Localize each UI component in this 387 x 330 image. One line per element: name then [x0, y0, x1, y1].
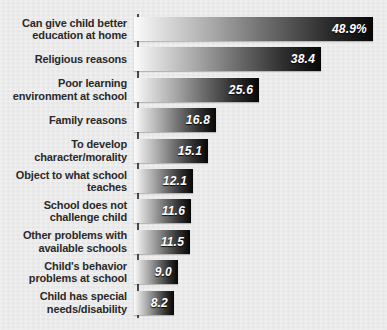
bar-category-label: Child's behavior problems at school	[0, 260, 132, 285]
bar-row: To develop character/morality15.1	[0, 136, 387, 166]
bar-category-label: Family reasons	[0, 114, 132, 127]
bar-value-label: 9.0	[155, 265, 172, 279]
bar-row: Family reasons16.8	[0, 105, 387, 135]
bar-track: 15.1	[132, 136, 387, 166]
bar-track: 9.0	[132, 257, 387, 287]
bar[interactable]: 11.5	[134, 230, 190, 254]
bar-value-label: 25.6	[229, 83, 253, 97]
bar-row: Religious reasons38.4	[0, 44, 387, 74]
bar-track: 12.1	[132, 166, 387, 196]
bar-value-label: 15.1	[178, 144, 202, 158]
bar-category-label: School does not challenge child	[0, 199, 132, 224]
bar[interactable]: 38.4	[134, 47, 321, 71]
bar-track: 38.4	[132, 44, 387, 74]
bar-row: Child has special needs/disability8.2	[0, 288, 387, 318]
bar-category-label: Child has special needs/disability	[0, 290, 132, 315]
bar[interactable]: 15.1	[134, 139, 208, 163]
bar[interactable]: 25.6	[134, 78, 259, 102]
bar-value-label: 48.9%	[332, 22, 367, 36]
bar[interactable]: 12.1	[134, 169, 193, 193]
bar-category-label: Poor learning environment at school	[0, 77, 132, 102]
bar[interactable]: 48.9%	[134, 17, 373, 41]
bar[interactable]: 11.6	[134, 199, 191, 223]
bar-category-label: To develop character/morality	[0, 138, 132, 163]
bar-row: Poor learning environment at school25.6	[0, 75, 387, 105]
bar-track: 8.2	[132, 288, 387, 318]
bar-track: 11.5	[132, 227, 387, 257]
bar-value-label: 12.1	[163, 174, 187, 188]
bar-row: Child's behavior problems at school9.0	[0, 257, 387, 287]
bar-value-label: 11.6	[162, 204, 185, 218]
bar-value-label: 16.8	[186, 113, 210, 127]
bar-value-label: 38.4	[291, 52, 315, 66]
bar[interactable]: 9.0	[134, 260, 178, 284]
bar-row: Can give child better education at home4…	[0, 14, 387, 44]
bar-value-label: 11.5	[161, 235, 184, 249]
bar[interactable]: 16.8	[134, 108, 216, 132]
bar-category-label: Other problems with available schools	[0, 229, 132, 254]
bar-value-label: 8.2	[151, 296, 168, 310]
bar-row: Other problems with available schools11.…	[0, 227, 387, 257]
bar[interactable]: 8.2	[134, 291, 174, 315]
bar-track: 25.6	[132, 75, 387, 105]
bar-row: Object to what school teaches12.1	[0, 166, 387, 196]
bar-track: 48.9%	[132, 14, 387, 44]
bar-track: 16.8	[132, 105, 387, 135]
bar-row: School does not challenge child11.6	[0, 196, 387, 226]
bar-track: 11.6	[132, 196, 387, 226]
bar-category-label: Can give child better education at home	[0, 17, 132, 42]
bar-category-label: Religious reasons	[0, 53, 132, 66]
horizontal-bar-chart: Can give child better education at home4…	[0, 0, 387, 330]
bar-category-label: Object to what school teaches	[0, 169, 132, 194]
